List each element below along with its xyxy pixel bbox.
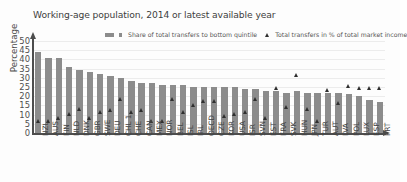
x-axis-tick-label: ESP — [372, 122, 381, 136]
scatter-marker — [377, 86, 381, 90]
gridline — [33, 59, 385, 60]
y-axis-tick-label: 40 — [4, 55, 30, 63]
x-axis-tick-label: DEU — [113, 121, 122, 136]
scatter-marker — [77, 107, 81, 111]
scatter-marker — [367, 86, 371, 90]
legend-bar-swatch-icon — [105, 33, 114, 37]
scatter-marker — [56, 116, 60, 120]
scatter-marker — [36, 119, 40, 123]
gridline — [33, 69, 385, 70]
x-axis-tick-label: CHL 1 — [124, 115, 133, 136]
x-axis-tick-label: ISL — [186, 125, 195, 136]
scatter-marker — [346, 84, 350, 88]
x-axis-tick-label: FRA — [279, 122, 288, 136]
scatter-marker — [222, 114, 226, 118]
scatter-marker — [315, 119, 319, 123]
x-axis-tick-label: NLD — [72, 121, 81, 136]
scatter-marker — [357, 86, 361, 90]
x-axis-tick-label: IRL — [196, 125, 205, 136]
scatter-marker — [232, 112, 236, 116]
x-axis-tick-label: USA — [238, 121, 247, 136]
y-axis-tick-label: 35 — [4, 65, 30, 73]
y-axis-arrow-icon — [30, 32, 36, 39]
y-axis-ticks: 05101520253035404550 — [0, 0, 30, 182]
x-axis-tick-label: CAN — [145, 121, 154, 136]
x-axis-tick-label: MEX — [155, 120, 164, 136]
x-axis-tick-label: BEL — [176, 122, 185, 136]
scatter-marker — [294, 73, 298, 77]
x-axis-tick-label: SWE — [103, 120, 112, 136]
y-axis-tick-label: 30 — [4, 74, 30, 82]
y-axis-tick-label: 50 — [4, 37, 30, 45]
scatter-marker — [243, 110, 247, 114]
x-axis-tick-label: NOR — [165, 120, 174, 136]
legend-bar-swatch-icon-2 — [119, 33, 122, 37]
scatter-marker — [139, 108, 143, 112]
x-axis-tick-label: LUX — [362, 122, 371, 136]
gridline — [33, 41, 385, 42]
x-axis-tick-label: JPN — [310, 124, 319, 136]
x-axis-tick-label: HUN — [300, 120, 309, 136]
x-axis-tick-label: ISR — [248, 124, 257, 136]
scatter-marker — [253, 97, 257, 101]
scatter-marker — [181, 110, 185, 114]
x-axis-tick-label: PRT — [383, 123, 392, 136]
scatter-marker — [129, 110, 133, 114]
scatter-marker — [98, 110, 102, 114]
x-axis-tick-label: EST — [269, 122, 278, 136]
gridline — [33, 50, 385, 51]
x-axis-tick-label: NZL — [41, 122, 50, 136]
y-axis-line — [32, 38, 34, 135]
legend-triangle-marker-icon — [265, 33, 269, 37]
y-axis-tick-label: 25 — [4, 83, 30, 91]
chart-title: Working-age population, 2014 or latest a… — [33, 9, 276, 20]
scatter-marker — [305, 107, 309, 111]
x-axis-tick-label: KOR — [227, 121, 236, 136]
x-axis-tick-label: POL — [352, 122, 361, 136]
y-axis-tick-label: 20 — [4, 92, 30, 100]
scatter-marker — [325, 88, 329, 92]
y-axis-tick-label: 0 — [4, 129, 30, 137]
x-axis-tick-label: SVN — [258, 121, 267, 136]
x-axis-tick-label: FIN — [62, 124, 71, 136]
scatter-marker — [108, 108, 112, 112]
x-axis-tick-label: DNK — [82, 120, 91, 136]
x-axis-tick-label: AUS — [51, 121, 60, 136]
legend-label-series-1: Share of total transfers to bottom quint… — [128, 31, 257, 38]
x-axis-tick-label: GBR — [93, 120, 102, 136]
chart-legend: Share of total transfers to bottom quint… — [105, 31, 407, 38]
y-axis-tick-label: 5 — [4, 120, 30, 128]
legend-label-series-2: Total transfers in % of total market inc… — [275, 31, 407, 38]
x-axis-tick-label: LVA — [341, 123, 350, 136]
scatter-marker — [284, 105, 288, 109]
y-axis-tick-label: 15 — [4, 101, 30, 109]
x-axis-tick-label: CHE — [134, 121, 143, 136]
y-axis-tick-label: 10 — [4, 111, 30, 119]
scatter-marker — [191, 103, 195, 107]
x-axis-tick-label: SVK — [289, 122, 298, 136]
x-axis-tick-label: OECD — [207, 115, 216, 136]
scatter-marker — [212, 99, 216, 103]
scatter-marker — [118, 97, 122, 101]
scatter-marker — [170, 97, 174, 101]
scatter-marker — [263, 116, 267, 120]
x-axis-tick-label: CZE — [217, 121, 226, 136]
scatter-marker — [201, 99, 205, 103]
scatter-marker — [274, 86, 278, 90]
x-axis-tick-label: TUR — [321, 121, 330, 136]
scatter-marker — [336, 101, 340, 105]
y-axis-tick-label: 45 — [4, 46, 30, 54]
scatter-marker — [67, 112, 71, 116]
x-axis-tick-label: AUT — [331, 121, 340, 136]
